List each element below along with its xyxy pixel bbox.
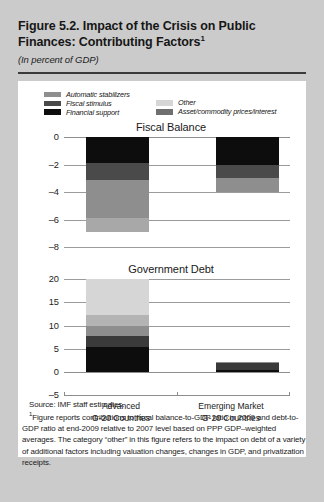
header-divider: [18, 72, 306, 74]
bar-segment: [86, 163, 149, 180]
plot-area-fiscal-balance: 0–2–4–6–8: [64, 137, 290, 247]
figure-title-text: Figure 5.2. Impact of the Crisis on Publ…: [18, 19, 256, 49]
legend-item: Other: [156, 99, 294, 108]
plot-area-government-debt: 20151050–5: [64, 279, 290, 395]
figure-title-footnote-marker: 1: [200, 34, 204, 43]
figure-note-text: Figure reports contributions to fiscal b…: [22, 413, 305, 467]
bar-segment: [86, 315, 149, 326]
bar-segment: [216, 362, 279, 363]
bar-segment: [216, 137, 279, 165]
bar-segment: [86, 336, 149, 348]
bar-segment: [86, 180, 149, 219]
y-axis-tick-label: –2: [49, 160, 59, 170]
y-axis-tick-label: 5: [54, 344, 59, 354]
legend-swatch-icon: [44, 101, 61, 107]
legend-swatch-icon: [156, 100, 173, 106]
legend-swatch-icon: [44, 109, 61, 115]
legend-item-label: Fiscal stimulus: [66, 99, 112, 108]
legend-swatch-icon: [156, 109, 173, 115]
panel-title-fiscal-balance: Fiscal Balance: [18, 121, 306, 133]
legend-item: Asset/commodity prices/interest: [156, 108, 294, 117]
y-axis-tick-label: 0: [54, 367, 59, 377]
y-axis-tick-label: –8: [49, 242, 59, 252]
legend-swatch-icon: [44, 92, 61, 98]
x-axis-line: [64, 395, 290, 396]
panel-government-debt: Government Debt 20151050–5 AdvancedG-20 …: [18, 263, 306, 411]
legend-item-label: Other: [178, 98, 196, 107]
figure-page: Figure 5.2. Impact of the Crisis on Publ…: [0, 0, 324, 502]
legend-column-right: OtherAsset/commodity prices/interest: [156, 90, 294, 117]
gridline: [64, 247, 290, 248]
y-axis-tick-label: 10: [49, 321, 59, 331]
panel-title-government-debt: Government Debt: [18, 263, 306, 275]
figure-title: Figure 5.2. Impact of the Crisis on Publ…: [18, 18, 306, 50]
y-axis-tick-label: 15: [49, 297, 59, 307]
bar-stack: [216, 279, 279, 395]
panel-fiscal-balance: Fiscal Balance 0–2–4–6–8: [18, 121, 306, 261]
legend-column-left: Automatic stabilizersFiscal stimulusFina…: [44, 90, 156, 117]
y-axis-tick-label: 0: [54, 132, 59, 142]
bar-segment: [216, 165, 279, 179]
y-axis-tick-label: –4: [49, 187, 59, 197]
figure-footer: Source: IMF staff estimates. 1Figure rep…: [22, 399, 306, 468]
bar-segment: [86, 279, 149, 315]
figure-note: 1Figure reports contributions to fiscal …: [22, 410, 306, 468]
bar-segment: [86, 218, 149, 232]
bar-stack: [86, 279, 149, 395]
y-axis-tick-label: –6: [49, 215, 59, 225]
x-axis-tick: [64, 392, 65, 395]
bar-segment: [86, 347, 149, 372]
bar-stack: [86, 137, 149, 247]
x-axis-tick: [289, 392, 290, 395]
bar-stack: [216, 137, 279, 247]
figure-source: Source: IMF staff estimates.: [29, 399, 306, 410]
bar-segment: [216, 363, 279, 370]
legend-item-label: Asset/commodity prices/interest: [178, 107, 276, 116]
x-axis-tick: [177, 392, 178, 395]
chart-legend: Automatic stabilizersFiscal stimulusFina…: [44, 90, 294, 117]
y-axis-tick-label: 20: [49, 274, 59, 284]
legend-item-label: Automatic stabilizers: [66, 90, 130, 99]
legend-item: Financial support: [44, 108, 156, 117]
legend-item: Fiscal stimulus: [44, 99, 156, 108]
bar-segment: [86, 326, 149, 336]
bar-segment: [86, 137, 149, 163]
legend-item-label: Financial support: [66, 108, 119, 117]
legend-item: Automatic stabilizers: [44, 90, 156, 99]
figure-subtitle: (In percent of GDP): [18, 54, 306, 65]
bar-segment: [216, 370, 279, 372]
bar-segment: [216, 178, 279, 192]
